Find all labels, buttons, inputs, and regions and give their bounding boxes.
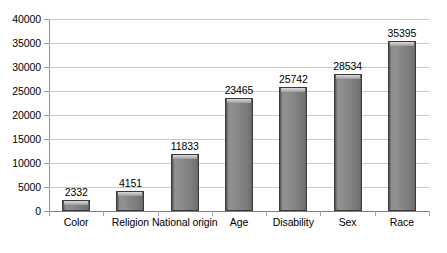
bar-top-highlight [281, 88, 305, 92]
bar-top-highlight [173, 155, 197, 159]
x-axis-tick-mark [429, 211, 430, 216]
bar-group: 35395 [375, 19, 429, 211]
y-axis-tick-label: 25000 [0, 86, 41, 97]
y-axis-tick-mark [44, 187, 49, 188]
bar-value-label: 35395 [387, 27, 416, 39]
bar [62, 200, 90, 211]
y-axis-tick-label: 5000 [0, 182, 41, 193]
x-axis-tick-mark [266, 211, 267, 216]
plot-area: 233241511183323465257422853435395 [49, 19, 429, 211]
bar-group: 4151 [103, 19, 157, 211]
bar [225, 98, 253, 211]
bar [388, 41, 416, 211]
bar [279, 87, 307, 211]
bar-top-highlight [336, 75, 360, 79]
bar-chart: 4000035000300002500020000150001000050000… [0, 0, 447, 253]
x-axis-tick-mark [103, 211, 104, 216]
bar-group: 28534 [320, 19, 374, 211]
bar [116, 191, 144, 211]
bar-top-highlight [227, 99, 251, 103]
bar-value-label: 4151 [119, 177, 142, 189]
bar-top-highlight [64, 201, 88, 205]
x-axis-tick-mark [212, 211, 213, 216]
bar-top-highlight [118, 192, 142, 196]
y-axis-tick-mark [44, 67, 49, 68]
bar [171, 154, 199, 211]
y-axis-tick-mark [44, 139, 49, 140]
bar-group: 11833 [158, 19, 212, 211]
bar-group: 23465 [212, 19, 266, 211]
y-axis-tick-mark [44, 163, 49, 164]
y-axis-tick-label: 10000 [0, 158, 41, 169]
y-axis-tick-mark [44, 43, 49, 44]
bar-value-label: 25742 [279, 73, 308, 85]
y-axis-tick-label: 30000 [0, 62, 41, 73]
bar [334, 74, 362, 211]
bar-group: 25742 [266, 19, 320, 211]
bar-group: 2332 [49, 19, 103, 211]
y-axis-tick-mark [44, 91, 49, 92]
y-axis-tick-mark [44, 115, 49, 116]
x-axis-tick-mark [375, 211, 376, 216]
x-axis-tick-mark [320, 211, 321, 216]
bar-value-label: 2332 [65, 186, 88, 198]
bar-value-label: 23465 [225, 84, 254, 96]
y-axis-tick-label: 20000 [0, 110, 41, 121]
y-axis-tick-label: 15000 [0, 134, 41, 145]
x-axis-tick-mark [158, 211, 159, 216]
x-axis-category-label: Race [362, 216, 442, 229]
bar-value-label: 11833 [171, 140, 199, 152]
y-axis-tick-mark [44, 19, 49, 20]
bar-value-label: 28534 [333, 60, 362, 72]
bar-top-highlight [390, 42, 414, 46]
y-axis-tick-label: 40000 [0, 14, 41, 25]
x-axis-tick-mark [49, 211, 50, 216]
y-axis-tick-label: 0 [0, 206, 41, 217]
x-axis-line [49, 211, 429, 212]
y-axis-tick-label: 35000 [0, 38, 41, 49]
